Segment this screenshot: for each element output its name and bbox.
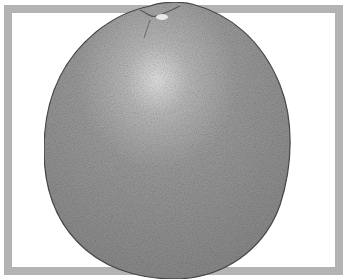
- fruit-body: [44, 2, 290, 279]
- grapefruit-icon: [0, 0, 346, 279]
- stem-highlight: [156, 14, 168, 20]
- fruit-illustration: [0, 0, 346, 279]
